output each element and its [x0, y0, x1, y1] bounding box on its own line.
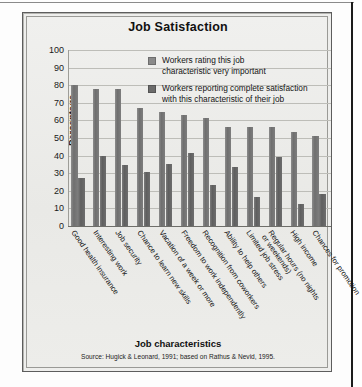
bar — [159, 112, 165, 226]
bar — [312, 136, 318, 226]
legend-label-line: Workers reporting complete satisfaction — [162, 83, 328, 94]
y-axis-tick-label: 20 — [54, 186, 64, 196]
bar — [291, 132, 297, 226]
bar — [254, 197, 260, 226]
bar — [225, 127, 231, 226]
legend-label-line: with this characteristic of their job — [162, 94, 328, 105]
source-note: Source: Hugick & Leonard, 1991; based on… — [23, 353, 333, 360]
bar-group — [93, 50, 106, 226]
bar — [78, 178, 84, 226]
bar — [100, 156, 106, 226]
bar — [203, 118, 209, 226]
legend-item-label: Workers rating this job characteristic v… — [162, 55, 328, 76]
bar — [210, 185, 216, 226]
bar — [122, 165, 128, 226]
legend-label-line: Workers rating this job — [162, 55, 328, 66]
y-axis-tick-label: 40 — [54, 151, 64, 161]
y-axis-tick-label: 50 — [54, 133, 64, 143]
bar — [319, 194, 325, 226]
bar — [181, 115, 187, 226]
bar — [166, 164, 172, 226]
bar — [71, 85, 77, 226]
bar — [144, 172, 150, 226]
page-right-rule — [351, 2, 353, 387]
bar — [269, 127, 275, 226]
legend-swatch-icon — [148, 57, 156, 65]
y-axis-line — [68, 50, 69, 227]
legend-item: Workers reporting complete satisfaction … — [148, 83, 328, 104]
chart-panel: Job Satisfaction Percentage 010203040506… — [22, 12, 332, 372]
bar — [298, 204, 304, 226]
bar-group — [115, 50, 128, 226]
bar — [247, 127, 253, 226]
y-axis-tick-label: 60 — [54, 115, 64, 125]
y-axis-tick-label: 100 — [49, 45, 64, 55]
chart-title: Job Satisfaction — [23, 20, 333, 34]
legend-item: Workers rating this job characteristic v… — [148, 55, 328, 76]
x-axis-title: Job characteristics — [23, 338, 333, 349]
legend-label-line: characteristic very important — [162, 66, 328, 77]
bar — [188, 153, 194, 226]
bar — [137, 108, 143, 226]
y-axis-tick-label: 80 — [54, 80, 64, 90]
legend-swatch-icon — [148, 85, 156, 93]
legend-item-label: Workers reporting complete satisfaction … — [162, 83, 328, 104]
x-axis-category-labels: Good health insuranceInteresting workJob… — [68, 229, 333, 339]
bar — [232, 167, 238, 226]
bar — [115, 89, 121, 226]
y-axis-tick-label: 90 — [54, 63, 64, 73]
bar — [93, 89, 99, 226]
y-axis-tick-label: 0 — [59, 221, 64, 231]
y-axis-tick-label: 70 — [54, 98, 64, 108]
y-axis-tick-label: 10 — [54, 203, 64, 213]
x-axis-line — [68, 226, 331, 227]
y-axis-tick-label: 30 — [54, 168, 64, 178]
page-top-rule — [0, 2, 354, 3]
chart-legend: Workers rating this job characteristic v… — [148, 55, 328, 111]
bar — [276, 157, 282, 226]
bar-group — [71, 50, 84, 226]
